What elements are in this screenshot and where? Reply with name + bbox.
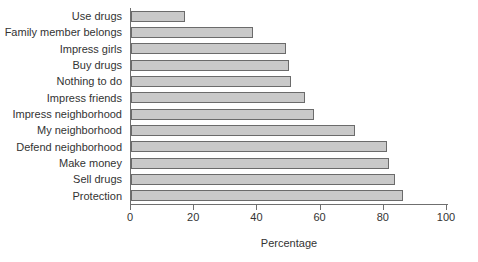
- bar-slot: [131, 155, 447, 171]
- bar: [131, 158, 389, 169]
- x-axis-tick-label: 60: [300, 211, 340, 224]
- x-axis-tick: [130, 205, 131, 210]
- bar-slot: [131, 24, 447, 40]
- x-axis-title: Percentage: [130, 237, 448, 250]
- bar: [131, 43, 286, 54]
- bar-slot: [131, 106, 447, 122]
- bar: [131, 174, 395, 185]
- bar-chart: Use drugs Family member belongs Impress …: [0, 0, 478, 262]
- category-label: Family member belongs: [0, 24, 127, 40]
- bar-slot: [131, 73, 447, 89]
- bar-slot: [131, 90, 447, 106]
- x-axis-line: [130, 204, 448, 205]
- plot-area: 020406080100: [130, 8, 447, 204]
- category-label: Use drugs: [0, 8, 127, 24]
- category-label: Impress neighborhood: [0, 106, 127, 122]
- bar-slot: [131, 188, 447, 204]
- bar-slot: [131, 41, 447, 57]
- bar: [131, 109, 314, 120]
- category-label: Impress friends: [0, 90, 127, 106]
- category-label: Sell drugs: [0, 171, 127, 187]
- bar: [131, 76, 291, 87]
- category-label: Protection: [0, 188, 127, 204]
- x-axis-tick-label: 20: [173, 211, 213, 224]
- x-axis-tick-label: 0: [110, 211, 150, 224]
- bar: [131, 60, 289, 71]
- bar: [131, 125, 355, 136]
- bar: [131, 92, 305, 103]
- bar: [131, 11, 185, 22]
- category-label: My neighborhood: [0, 122, 127, 138]
- bar-slot: [131, 122, 447, 138]
- x-axis-tick: [256, 205, 257, 210]
- x-axis-tick: [320, 205, 321, 210]
- bar: [131, 141, 387, 152]
- bar-series: [131, 8, 447, 204]
- category-label: Defend neighborhood: [0, 139, 127, 155]
- bar-slot: [131, 57, 447, 73]
- x-axis-tick-label: 100: [426, 211, 466, 224]
- category-label: Buy drugs: [0, 57, 127, 73]
- x-axis-tick: [193, 205, 194, 210]
- category-label: Nothing to do: [0, 73, 127, 89]
- bar-slot: [131, 139, 447, 155]
- x-axis-tick: [446, 205, 447, 210]
- bar: [131, 27, 253, 38]
- category-axis-labels: Use drugs Family member belongs Impress …: [0, 8, 127, 204]
- bar-slot: [131, 171, 447, 187]
- category-label: Make money: [0, 155, 127, 171]
- x-axis-tick-label: 40: [236, 211, 276, 224]
- category-label: Impress girls: [0, 41, 127, 57]
- bar-slot: [131, 8, 447, 24]
- bar: [131, 190, 403, 201]
- x-axis-tick: [383, 205, 384, 210]
- x-axis-tick-label: 80: [363, 211, 403, 224]
